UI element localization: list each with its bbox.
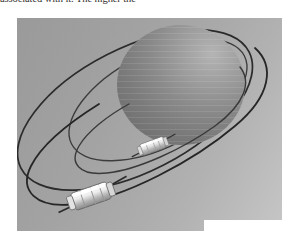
orbit-illustration-figure (17, 18, 282, 231)
satellite-outer (54, 174, 132, 216)
orbit-illustration-svg (17, 18, 282, 231)
document-page: associated with it. The higher the (0, 0, 282, 231)
figure-bottom-right-margin (204, 220, 282, 231)
body-text-fragment: associated with it. The higher the (0, 0, 282, 7)
